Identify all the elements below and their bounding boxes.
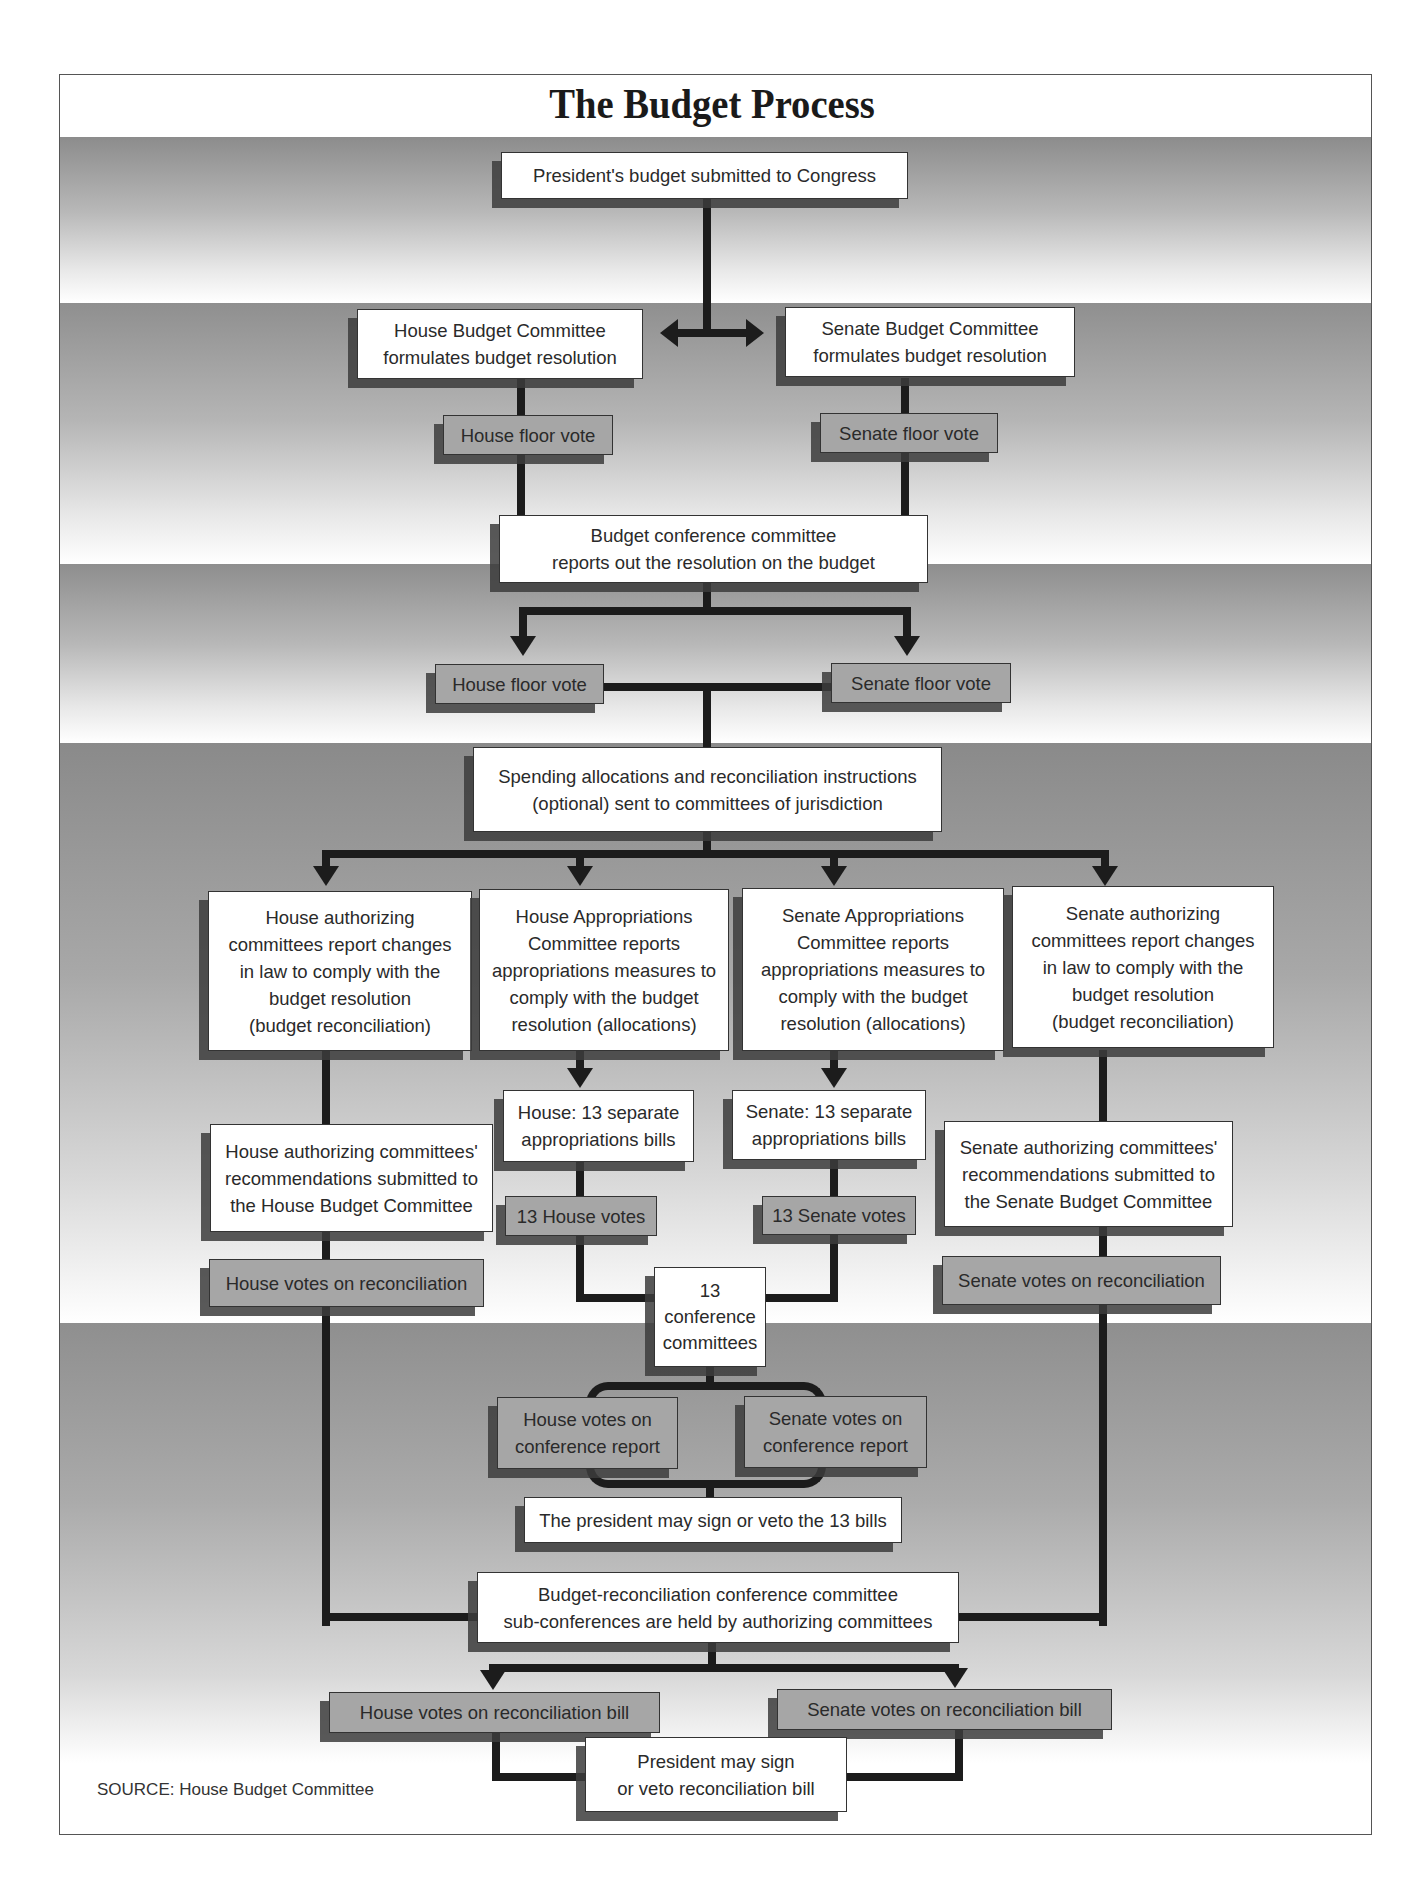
connector xyxy=(706,1484,714,1498)
step-senate-budget-committee: Senate Budget Committee formulates budge… xyxy=(785,307,1075,377)
step-senate-authorizing: Senate authorizing committees report cha… xyxy=(1012,886,1274,1048)
source-note: SOURCE: House Budget Committee xyxy=(97,1780,374,1800)
connector xyxy=(903,607,911,637)
arrow-left-icon xyxy=(660,319,678,347)
step-senate-floor-vote-2: Senate floor vote xyxy=(831,663,1011,703)
step-president-13-bills: The president may sign or veto the 13 bi… xyxy=(524,1497,902,1543)
arrow-down-icon xyxy=(567,1068,593,1088)
connector xyxy=(322,1613,482,1621)
step-house-floor-vote-2: House floor vote xyxy=(435,664,604,704)
arrow-down-icon xyxy=(480,1670,506,1690)
step-house-authorizing: House authorizing committees report chan… xyxy=(208,891,472,1051)
step-president-submits: President's budget submitted to Congress xyxy=(501,152,908,199)
step-senate-auth-recommendations: Senate authorizing committees' recommend… xyxy=(944,1121,1233,1227)
arrow-right-icon xyxy=(746,319,764,347)
connector xyxy=(675,329,747,337)
step-house-votes-reconciliation-bill: House votes on reconciliation bill xyxy=(329,1692,660,1733)
connector xyxy=(703,199,711,337)
arrow-down-icon xyxy=(567,866,593,886)
arrow-down-icon xyxy=(894,636,920,656)
step-13-conference-committees: 13 conference committees xyxy=(654,1267,766,1367)
arrow-down-icon xyxy=(942,1668,968,1688)
step-house-auth-recommendations: House authorizing committees' recommenda… xyxy=(210,1124,493,1232)
background-band-3 xyxy=(60,564,1371,743)
connector xyxy=(492,1773,586,1781)
connector xyxy=(519,607,911,615)
step-house-appropriations: House Appropriations Committee reports a… xyxy=(479,889,729,1051)
arrow-down-icon xyxy=(1092,866,1118,886)
connector xyxy=(519,607,527,637)
connector xyxy=(489,1664,959,1672)
step-reconciliation-conference: Budget-reconciliation conference committ… xyxy=(477,1572,959,1643)
arrow-down-icon xyxy=(510,636,536,656)
step-senate-13-votes: 13 Senate votes xyxy=(762,1196,916,1235)
arrow-down-icon xyxy=(821,1068,847,1088)
step-president-reconciliation-bill: President may sign or veto reconciliatio… xyxy=(585,1737,847,1812)
diagram-title: The Budget Process xyxy=(57,80,1367,128)
connector xyxy=(322,850,1109,858)
arrow-down-icon xyxy=(821,866,847,886)
step-senate-votes-reconciliation-bill: Senate votes on reconciliation bill xyxy=(777,1689,1112,1730)
step-house-13-votes: 13 House votes xyxy=(505,1196,657,1236)
connector xyxy=(764,1294,838,1302)
step-senate-votes-reconciliation: Senate votes on reconciliation xyxy=(942,1256,1221,1305)
step-house-budget-committee: House Budget Committee formulates budget… xyxy=(357,309,643,379)
step-senate-appropriations: Senate Appropriations Committee reports … xyxy=(742,888,1004,1051)
connector xyxy=(846,1773,963,1781)
step-house-votes-reconciliation: House votes on reconciliation xyxy=(209,1259,484,1307)
step-house-votes-conference-report: House votes on conference report xyxy=(497,1397,678,1469)
step-house-13-bills: House: 13 separate appropriations bills xyxy=(503,1090,694,1162)
connector xyxy=(703,687,711,749)
step-spending-allocations: Spending allocations and reconciliation … xyxy=(473,747,942,832)
step-senate-votes-conference-report: Senate votes on conference report xyxy=(744,1396,927,1468)
step-house-floor-vote-1: House floor vote xyxy=(443,415,613,455)
step-budget-conference: Budget conference committee reports out … xyxy=(499,515,928,583)
connector xyxy=(604,683,834,691)
step-senate-floor-vote-1: Senate floor vote xyxy=(820,413,998,453)
arrow-down-icon xyxy=(313,866,339,886)
connector xyxy=(576,1294,658,1302)
connector xyxy=(955,1613,1107,1621)
step-senate-13-bills: Senate: 13 separate appropriations bills xyxy=(732,1090,926,1160)
